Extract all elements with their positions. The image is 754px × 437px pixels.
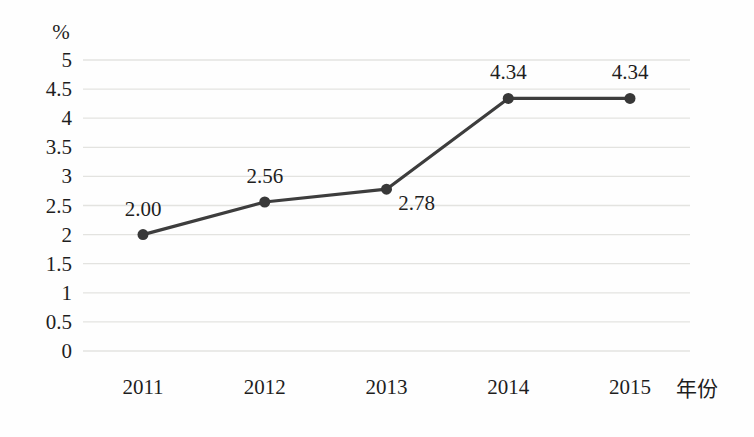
line-chart: % 年份 00.511.522.533.544.55 2011201220132… [0, 0, 754, 437]
y-tick-label: 0.5 [12, 309, 72, 334]
data-point-marker [503, 93, 514, 104]
data-point-marker [259, 197, 270, 208]
x-tick-label: 2015 [609, 375, 651, 400]
x-tick-label: 2011 [122, 375, 163, 400]
data-point-value-label: 2.78 [398, 191, 435, 216]
data-point-marker [138, 229, 149, 240]
y-tick-label: 0 [12, 339, 72, 364]
y-tick-label: 1.5 [12, 251, 72, 276]
data-point-value-label: 2.00 [125, 196, 162, 221]
x-tick-label: 2014 [487, 375, 529, 400]
data-point-value-label: 4.34 [612, 60, 649, 85]
x-tick-label: 2012 [244, 375, 286, 400]
y-tick-label: 2.5 [12, 193, 72, 218]
y-tick-label: 3.5 [12, 135, 72, 160]
y-tick-label: 4 [12, 106, 72, 131]
data-point-marker [625, 93, 636, 104]
data-point-marker [381, 184, 392, 195]
y-tick-label: 1 [12, 280, 72, 305]
y-tick-label: 5 [12, 48, 72, 73]
data-point-value-label: 4.34 [490, 60, 527, 85]
x-axis-unit-label: 年份 [676, 372, 718, 402]
y-tick-label: 2 [12, 222, 72, 247]
y-tick-label: 3 [12, 164, 72, 189]
y-tick-label: 4.5 [12, 77, 72, 102]
x-tick-label: 2013 [366, 375, 408, 400]
y-axis-unit-label: % [52, 20, 70, 45]
data-point-value-label: 2.56 [246, 164, 283, 189]
